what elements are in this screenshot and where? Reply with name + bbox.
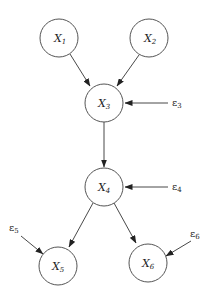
edge-x1-x3 — [70, 54, 90, 86]
edge-x2-x3 — [117, 55, 139, 86]
edge-x4-x5 — [69, 203, 93, 247]
node-x2: X2 — [130, 19, 168, 57]
edge-e6-x6 — [166, 241, 191, 256]
node-x3: X3 — [85, 84, 123, 122]
node-x1: X1 — [40, 19, 78, 57]
noise-e4: ε4 — [172, 181, 182, 194]
node-x5: X5 — [39, 247, 77, 285]
causal-diagram: X1 X2 X3 X4 X5 X6 ε3 ε4 ε5 ε6 — [0, 0, 208, 300]
noise-e3: ε3 — [172, 97, 182, 110]
edge-e5-x5 — [21, 236, 43, 254]
node-x4: X4 — [85, 168, 123, 206]
edge-x4-x6 — [114, 203, 136, 243]
noise-e5: ε5 — [9, 222, 19, 235]
node-x6: X6 — [129, 244, 167, 282]
noise-e6: ε6 — [190, 228, 200, 241]
